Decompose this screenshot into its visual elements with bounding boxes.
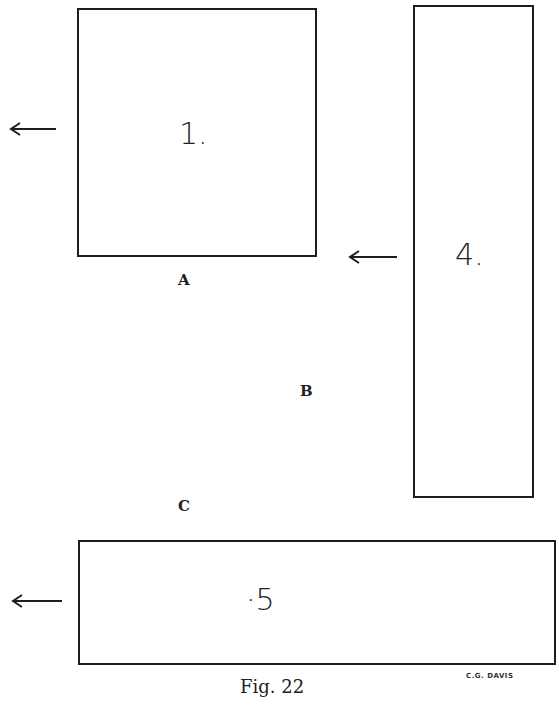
box-5-label: ·5: [246, 582, 275, 617]
letter-a: A: [178, 271, 190, 289]
arrow-left-icon: [347, 250, 399, 264]
letter-c: C: [178, 497, 190, 515]
box-1: 1.: [77, 8, 317, 257]
figure-caption: Fig. 22: [240, 676, 304, 697]
box-5: ·5: [78, 540, 556, 665]
letter-b: B: [300, 382, 313, 400]
box-4: 4.: [413, 5, 534, 498]
box-4-label: 4.: [455, 237, 484, 272]
artist-signature: C.G. DAVIS: [466, 672, 513, 680]
arrow-left-icon: [8, 122, 58, 136]
arrow-left-icon: [10, 594, 64, 608]
box-1-label: 1.: [179, 116, 208, 151]
